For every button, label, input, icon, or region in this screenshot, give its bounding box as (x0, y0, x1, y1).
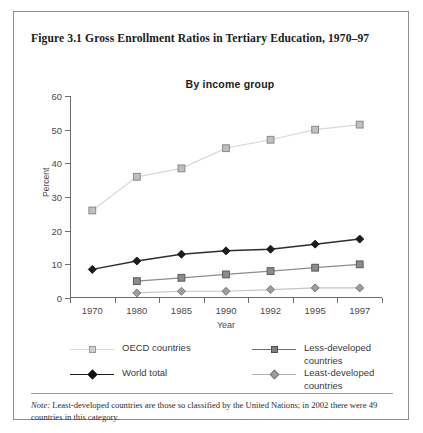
legend-row: OECD countriesLess-developed countries (70, 342, 400, 367)
legend-marker-diamond-icon (87, 369, 97, 379)
x-axis-title: Year (70, 320, 382, 330)
data-point-diamond (356, 235, 364, 243)
legend-swatch (70, 368, 114, 381)
legend-label: Less-developed countries (296, 342, 390, 367)
note-text: Least-developed countries are those so c… (31, 400, 377, 422)
legend-swatch (252, 368, 296, 381)
data-point-diamond (177, 250, 185, 258)
legend-marker-diamond-icon (269, 369, 279, 379)
x-tick-mark (293, 298, 294, 303)
data-point-square (89, 207, 96, 214)
note-label: Note: (31, 400, 50, 410)
figure-container: Figure 3.1 Gross Enrollment Ratios in Te… (13, 11, 409, 420)
plot-area: 0102030405060 19701980198519901992199519… (70, 96, 382, 298)
x-tick-mark (337, 298, 338, 303)
legend-label: OECD countries (114, 342, 191, 355)
x-tick-label-1980: 1980 (126, 305, 147, 316)
data-point-diamond (311, 240, 319, 248)
data-point-diamond (356, 284, 364, 292)
data-point-square (356, 121, 363, 128)
legend-row: World totalLeast-developed countries (70, 367, 400, 392)
chart-legend: OECD countriesLess-developed countriesWo… (70, 342, 400, 392)
legend-item-world-total: World total (70, 367, 235, 392)
data-point-square (312, 264, 319, 271)
y-axis-title: Percent (41, 168, 51, 197)
data-point-square (356, 261, 363, 268)
x-tick-mark (159, 298, 160, 303)
figure-note: Note: Least-developed countries are thos… (31, 400, 393, 423)
series-line (92, 125, 359, 211)
y-tick-label: 30 (51, 192, 62, 203)
y-tick-label: 10 (51, 259, 62, 270)
data-point-square (223, 145, 230, 152)
data-point-diamond (267, 245, 275, 253)
x-tick-label-1997: 1997 (349, 305, 370, 316)
legend-label: Least-developed countries (296, 367, 400, 392)
legend-marker-square-icon (271, 346, 278, 353)
legend-item-less-developed-countries: Less-developed countries (235, 342, 400, 367)
x-tick-mark (70, 298, 71, 303)
series-least-developed-countries (133, 284, 364, 297)
plot-subtitle: By income group (14, 78, 408, 90)
chart-series-layer (70, 96, 382, 298)
data-point-square (178, 165, 185, 172)
x-tick-mark (204, 298, 205, 303)
series-oecd-countries (89, 121, 363, 214)
data-point-square (178, 274, 185, 281)
data-point-square (267, 268, 274, 275)
legend-item-least-developed-countries: Least-developed countries (235, 367, 400, 392)
x-tick-label-1992: 1992 (260, 305, 281, 316)
y-tick-label: 20 (51, 225, 62, 236)
y-tick-label: 50 (51, 124, 62, 135)
data-point-diamond (177, 287, 185, 295)
x-tick-label-1970: 1970 (82, 305, 103, 316)
x-tick-label-1985: 1985 (171, 305, 192, 316)
data-point-diamond (133, 257, 141, 265)
series-line (137, 264, 360, 281)
series-line (137, 288, 360, 293)
x-tick-mark (115, 298, 116, 303)
data-point-square (267, 136, 274, 143)
data-point-diamond (222, 247, 230, 255)
x-tick-label-1990: 1990 (215, 305, 236, 316)
y-tick-label: 60 (51, 91, 62, 102)
legend-swatch (70, 343, 114, 356)
data-point-square (133, 173, 140, 180)
y-tick-label: 0 (57, 293, 62, 304)
data-point-diamond (267, 286, 275, 294)
legend-swatch (252, 343, 296, 356)
legend-marker-square-icon (89, 346, 96, 353)
data-point-diamond (222, 287, 230, 295)
series-less-developed-countries (133, 261, 363, 285)
figure-title: Figure 3.1 Gross Enrollment Ratios in Te… (31, 31, 381, 47)
legend-label: World total (114, 367, 167, 380)
data-point-square (312, 126, 319, 133)
data-point-square (133, 278, 140, 285)
data-point-diamond (311, 284, 319, 292)
data-point-square (223, 271, 230, 278)
x-tick-mark (248, 298, 249, 303)
x-tick-mark (382, 298, 383, 303)
x-tick-label-1995: 1995 (305, 305, 326, 316)
legend-item-oecd-countries: OECD countries (70, 342, 235, 367)
note-divider (31, 393, 393, 394)
y-tick-label: 40 (51, 158, 62, 169)
data-point-diamond (133, 289, 141, 297)
data-point-diamond (88, 265, 96, 273)
